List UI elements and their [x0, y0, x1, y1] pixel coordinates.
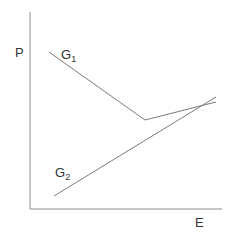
curve-g2-label: G2 — [55, 166, 70, 182]
curve-g2-label-main: G — [55, 165, 65, 180]
diagram-canvas — [0, 0, 232, 235]
curve-g1-label-main: G — [61, 47, 71, 62]
y-axis-label: P — [15, 46, 24, 59]
curve-g2-label-sub: 2 — [65, 172, 70, 182]
curve-g2 — [54, 97, 216, 196]
curve-g1-label-sub: 1 — [71, 54, 76, 64]
curve-g1-label: G1 — [61, 48, 76, 64]
x-axis-label: E — [195, 216, 204, 229]
